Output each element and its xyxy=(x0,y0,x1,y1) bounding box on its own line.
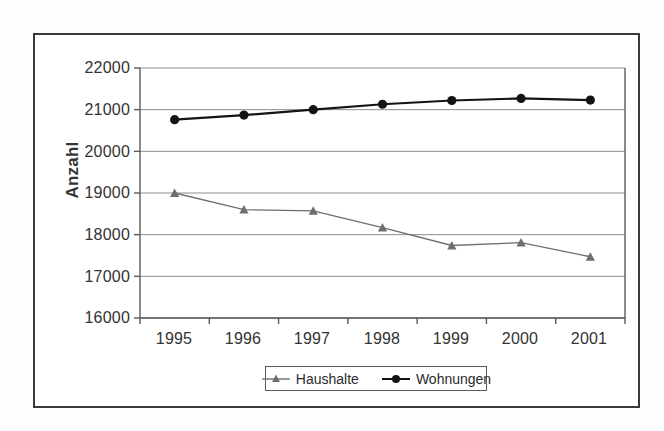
legend-marker-circle-icon xyxy=(381,373,411,385)
legend-label: Wohnungen xyxy=(416,371,491,387)
legend-label: Haushalte xyxy=(296,371,359,387)
chart-figure: Anzahl 22000 21000 20000 19000 18000 170… xyxy=(0,0,664,431)
series-wohnungen xyxy=(170,94,595,124)
legend-item-wohnungen: Wohnungen xyxy=(381,371,491,387)
series-haushalte xyxy=(170,188,595,260)
legend-marker-triangle-icon xyxy=(261,373,291,385)
legend-item-haushalte: Haushalte xyxy=(261,371,359,387)
chart-legend: Haushalte Wohnungen xyxy=(265,366,487,391)
